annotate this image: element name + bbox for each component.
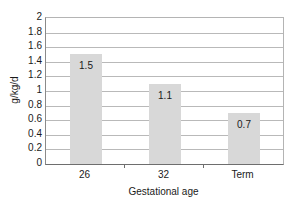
- x-axis-tick: [124, 164, 125, 168]
- bar[interactable]: 0.7: [228, 113, 260, 164]
- x-tick-label: 26: [45, 169, 124, 181]
- y-tick-label: 1.2: [16, 70, 42, 80]
- y-tick-label: 1.8: [16, 27, 42, 37]
- bar-value-label: 1.5: [70, 60, 102, 71]
- y-tick-label: 1.4: [16, 56, 42, 66]
- x-axis-title: Gestational age: [45, 186, 282, 198]
- bar-value-label: 0.7: [228, 119, 260, 130]
- bar-value-label: 1.1: [149, 90, 181, 101]
- y-tick-label: 0.6: [16, 114, 42, 124]
- plot-area: 1.51.10.7: [45, 17, 284, 165]
- y-tick-label: 1.6: [16, 41, 42, 51]
- y-tick-label: 0.4: [16, 129, 42, 139]
- bar[interactable]: 1.1: [149, 84, 181, 164]
- x-tick-label: Term: [203, 169, 282, 181]
- y-tick-label: 0.2: [16, 143, 42, 153]
- y-tick-label: 1: [16, 85, 42, 95]
- bars: 1.51.10.7: [46, 18, 283, 164]
- bar-chart: g/kg/d 00.20.40.60.811.21.41.61.82 1.51.…: [0, 0, 297, 205]
- bar[interactable]: 1.5: [70, 54, 102, 164]
- x-axis-tick: [203, 164, 204, 168]
- x-axis-tick-labels: 2632Term: [45, 169, 282, 183]
- y-tick-label: 2: [16, 12, 42, 22]
- y-tick-label: 0.8: [16, 100, 42, 110]
- y-tick-label: 0: [16, 158, 42, 168]
- y-axis-tick-labels: 00.20.40.60.811.21.41.61.82: [16, 17, 42, 163]
- x-tick-label: 32: [124, 169, 203, 181]
